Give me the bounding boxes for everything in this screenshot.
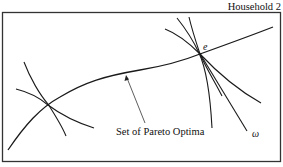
indifference-curve-h1-left	[24, 62, 66, 136]
omega-label: ω	[252, 128, 259, 139]
edgeworth-box-diagram: Household 2 e ω Set of Pareto Optima	[0, 0, 283, 167]
pareto-set-label: Set of Pareto Optima	[116, 126, 205, 137]
pareto-arrow-head	[125, 75, 130, 81]
household-2-label: Household 2	[228, 1, 281, 12]
indifference-curve-c	[165, 29, 261, 103]
budget-line	[199, 52, 247, 131]
pareto-arrow-line	[127, 78, 145, 123]
indifference-curve-a	[177, 18, 212, 128]
indifference-curve-h2-left	[16, 89, 94, 128]
edgeworth-box-frame	[3, 13, 281, 162]
endowment-e-label: e	[203, 41, 208, 52]
